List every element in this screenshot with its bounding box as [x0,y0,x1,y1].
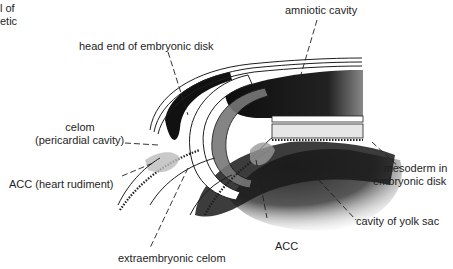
label-cropped-line2: etic [0,15,17,27]
leader-amniotic-cavity [300,20,317,78]
label-amniotic-cavity: amniotic cavity [285,4,357,16]
label-extraembryonic-celom: extraembryonic celom [118,252,226,264]
label-pericardial-cavity: (pericardial cavity) [35,134,124,146]
label-acc: ACC [275,240,298,252]
label-head-end-embryonic-disk: head end of embryonic disk [79,40,214,52]
label-mesoderm-line1: mesoderm in [378,162,453,174]
label-cropped-line1: l of [0,2,15,14]
label-celom: celom [30,121,130,133]
leader-pericardial-cavity [125,143,158,145]
label-acc-heart-rudiment: ACC (heart rudiment) [9,178,114,190]
label-cavity-of-yolk-sac: cavity of yolk sac [356,215,439,227]
label-mesoderm-line2: embryonic disk [373,175,446,187]
embryo-diagram: l of etic amniotic cavity head end of em… [0,0,453,269]
embryonic-disk [272,116,363,140]
leader-extraembryonic-celom [150,168,188,248]
